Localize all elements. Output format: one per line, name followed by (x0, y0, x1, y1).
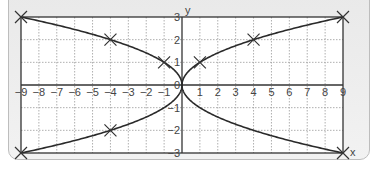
x-tick-label: 3 (233, 86, 239, 98)
x-tick-label: 4 (250, 86, 256, 98)
y-tick-label: 0 (174, 79, 180, 91)
x-tick-label: −8 (33, 86, 46, 98)
x-tick-label: −7 (51, 86, 64, 98)
x-tick-label: 1 (197, 86, 203, 98)
y-tick-label: 2 (174, 34, 180, 46)
x-tick-label: −6 (68, 86, 81, 98)
x-axis-label: x (350, 146, 356, 158)
x-tick-label: 9 (340, 86, 346, 98)
x-tick-label: 5 (268, 86, 274, 98)
x-tick-label: −2 (140, 86, 153, 98)
x-tick-label: −9 (15, 86, 28, 98)
y-tick-label: −3 (167, 147, 180, 159)
x-tick-label: 6 (286, 86, 292, 98)
y-tick-label: 1 (174, 56, 180, 68)
x-tick-label: −1 (158, 86, 171, 98)
x-tick-label: 7 (304, 86, 310, 98)
y-axis-label: y (185, 4, 191, 16)
y-tick-label: −2 (167, 124, 180, 136)
x-tick-label: −5 (86, 86, 99, 98)
x-tick-label: 2 (215, 86, 221, 98)
x-tick-label: 8 (322, 86, 328, 98)
x-tick-label: −3 (122, 86, 135, 98)
x-tick-label: −4 (104, 86, 117, 98)
y-tick-label: 3 (174, 11, 180, 23)
